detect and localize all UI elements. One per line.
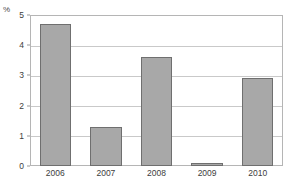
x-axis-tick-label: 2008 [131, 169, 182, 178]
x-axis-tick-label: 2009 [182, 169, 233, 178]
y-axis-tick-label: 3 [0, 71, 24, 80]
x-axis-tick-label: 2010 [232, 169, 283, 178]
y-axis-tick-column [0, 15, 27, 166]
y-axis-tick-mark [27, 75, 30, 76]
y-axis-tick-label: 4 [0, 41, 24, 50]
y-axis-tick-mark [27, 135, 30, 136]
y-axis-tick-label: 1 [0, 132, 24, 141]
bar [40, 24, 71, 166]
x-axis-tick-label: 2006 [30, 169, 81, 178]
y-axis-tick-label: 5 [0, 11, 24, 20]
bars-layer [30, 15, 283, 166]
bar-chart: % 20062007200820092010 012345 [0, 0, 290, 189]
y-axis-tick-label: 2 [0, 101, 24, 110]
bar [141, 57, 172, 166]
bar [242, 78, 273, 166]
y-axis-tick-mark [27, 166, 30, 167]
y-axis-tick-mark [27, 105, 30, 106]
y-axis-tick-mark [27, 15, 30, 16]
x-axis-tick-label: 2007 [81, 169, 132, 178]
x-axis-label-row: 20062007200820092010 [30, 169, 283, 185]
y-axis-tick-label: 0 [0, 162, 24, 171]
bar [90, 127, 121, 166]
y-axis-tick-mark [27, 45, 30, 46]
bar [191, 163, 222, 166]
